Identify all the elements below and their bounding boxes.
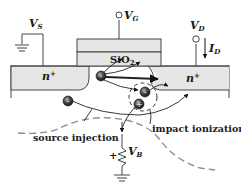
drain-current-label: ID <box>209 43 220 55</box>
gate-terminal <box>116 12 122 18</box>
svg-text:-: - <box>100 72 103 81</box>
source-voltage-label: VS <box>29 18 43 30</box>
body-voltage-label: VB <box>128 146 142 158</box>
source-n-plus-label: n+ <box>42 70 56 82</box>
svg-text:-: - <box>144 88 147 97</box>
drain-terminal <box>193 36 199 42</box>
drain-voltage-label: VD <box>190 20 205 32</box>
svg-text:-: - <box>67 97 70 106</box>
source-injection-label: source injection <box>33 133 119 143</box>
drain-n-plus-label: n+ <box>186 72 200 84</box>
oxide-label: SiO2 <box>110 55 135 66</box>
svg-text:+: + <box>136 100 143 109</box>
gate-voltage-label: VG <box>124 10 139 22</box>
impact-ionization-label: impact ionization <box>152 124 241 134</box>
gate-electrode <box>77 39 161 52</box>
body-polarity-label: + <box>109 151 117 161</box>
